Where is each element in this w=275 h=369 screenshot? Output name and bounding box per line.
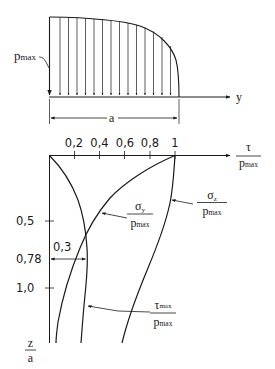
sigma-y-leader [102,213,127,218]
load-distribution-diagram [39,17,230,124]
sigma-y-label: σy pmax [131,199,150,230]
dimension-a-label: a [109,111,115,125]
tau-max-value-label: 0,3 [53,240,71,254]
tau-tick-label: 0,6 [116,136,134,150]
svg-text:τmax: τmax [155,298,172,312]
z-tick-label: 1,0 [16,281,34,295]
svg-text:z: z [28,336,33,350]
tau-tick-label: 0,4 [90,136,108,150]
svg-text:σy: σy [135,199,145,214]
tau-tick-label: 1 [171,136,178,150]
svg-text:pmax: pmax [203,204,222,218]
diagram-canvas: pmax y a [0,0,275,369]
sigma-z-label: σz pmax [203,188,222,218]
svg-text:σz: σz [207,188,217,203]
svg-text:pmax: pmax [154,315,173,329]
tau-max-label: τmax pmax [154,298,173,329]
tau-tick-label: 0,8 [141,136,159,150]
z-tick-label: 0,5 [16,214,34,228]
tau-axis-label: τ pmax [239,140,258,170]
tau-max-leader [88,306,150,312]
svg-text:τ: τ [246,140,251,154]
svg-text:a: a [28,351,34,365]
svg-text:pmax: pmax [239,156,258,170]
sigma-z-leader [172,200,193,204]
pmax-leader-line [39,57,49,68]
sigma-z-curve [122,156,175,344]
z-marker-label: 0,78 [16,252,42,266]
z-axis-label: z a [28,336,34,365]
load-arrows [60,17,171,95]
tau-tick-label: 0,2 [65,136,83,150]
load-envelope-curve [50,17,180,97]
svg-text:pmax: pmax [131,216,150,230]
pmax-label: pmax [14,48,36,63]
y-axis-label: y [236,90,242,104]
